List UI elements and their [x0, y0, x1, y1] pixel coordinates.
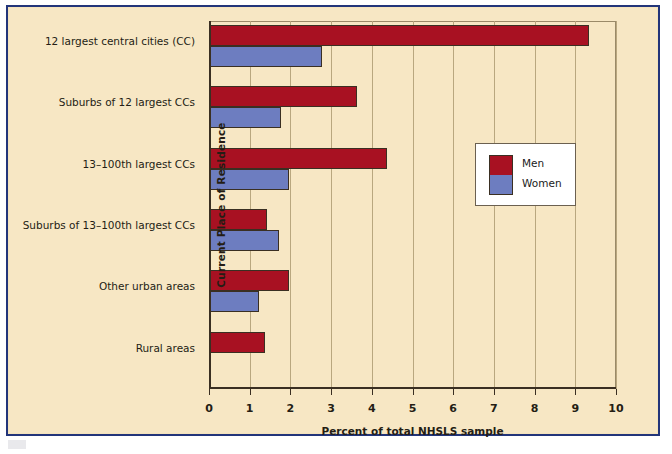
x-tick-label-2: 2 — [287, 402, 295, 415]
bar — [210, 148, 387, 169]
x-tick-6 — [453, 389, 454, 395]
category-label: Suburbs of 12 largest CCs — [0, 96, 195, 109]
legend-label-men: Men — [522, 157, 544, 169]
x-axis-title: Percent of total NHSLS sample — [209, 425, 616, 437]
x-tick-1 — [250, 389, 251, 395]
x-tick-label-9: 9 — [571, 402, 579, 415]
category-label: Rural areas — [0, 342, 195, 355]
legend-swatch-men — [490, 156, 512, 175]
x-tick-label-1: 1 — [246, 402, 254, 415]
x-tick-7 — [494, 389, 495, 395]
x-tick-0 — [209, 389, 210, 395]
x-tick-label-0: 0 — [205, 402, 213, 415]
gridline-4 — [372, 21, 373, 389]
x-tick-10 — [616, 389, 617, 395]
y-axis-line — [209, 21, 211, 389]
y-axis-title: Current Place of Residence — [215, 5, 227, 405]
x-tick-5 — [413, 389, 414, 395]
x-tick-label-6: 6 — [449, 402, 457, 415]
figure-root: 12 largest central cities (CC)Suburbs of… — [0, 0, 672, 454]
gridline-2 — [290, 21, 291, 389]
x-axis-line — [209, 387, 616, 389]
legend-label-women: Women — [522, 177, 562, 189]
x-tick-label-7: 7 — [490, 402, 498, 415]
corner-mark — [8, 440, 26, 449]
x-tick-label-4: 4 — [368, 402, 376, 415]
legend-swatch-women — [490, 175, 512, 194]
x-tick-label-10: 10 — [608, 402, 623, 415]
gridline-10 — [616, 21, 617, 389]
category-label: 13–100th largest CCs — [0, 158, 195, 171]
legend-swatches — [489, 155, 513, 195]
x-tick-9 — [575, 389, 576, 395]
legend-box: Men Women — [475, 143, 576, 206]
plot-area: 12 largest central cities (CC)Suburbs of… — [209, 21, 616, 389]
x-tick-label-8: 8 — [531, 402, 539, 415]
x-tick-label-5: 5 — [409, 402, 417, 415]
bar — [210, 86, 357, 107]
gridline-5 — [413, 21, 414, 389]
x-tick-3 — [331, 389, 332, 395]
x-tick-4 — [372, 389, 373, 395]
bar — [210, 25, 589, 46]
x-tick-2 — [290, 389, 291, 395]
category-label: Suburbs of 13–100th largest CCs — [0, 219, 195, 232]
x-tick-label-3: 3 — [327, 402, 335, 415]
category-label: 12 largest central cities (CC) — [0, 35, 195, 48]
gridline-6 — [453, 21, 454, 389]
x-tick-8 — [535, 389, 536, 395]
category-label: Other urban areas — [0, 280, 195, 293]
gridline-3 — [331, 21, 332, 389]
